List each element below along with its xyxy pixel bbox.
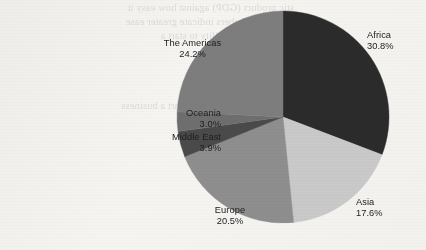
pie-slice-the-americas (177, 11, 283, 117)
slice-label-americas: The Americas 24.2% (140, 38, 245, 61)
slice-label-oceania-name: Oceania (143, 108, 221, 119)
slice-label-europe: Europe 20.5% (190, 205, 270, 228)
slice-label-africa-name: Africa (367, 30, 394, 41)
slice-label-asia: Asia 17.6% (356, 197, 383, 220)
slice-label-africa: Africa 30.8% (367, 30, 394, 53)
slice-label-europe-name: Europe (190, 205, 270, 216)
slice-label-middle-east-name: Middle East (143, 132, 221, 143)
slice-label-europe-value: 20.5% (190, 216, 270, 227)
slice-label-middle-east: Middle East 3.9% (143, 132, 221, 155)
slice-label-americas-name: The Americas (140, 38, 245, 49)
slice-label-asia-value: 17.6% (356, 208, 383, 219)
slice-label-americas-value: 24.2% (140, 49, 245, 60)
slice-label-africa-value: 30.8% (367, 41, 394, 52)
slice-label-asia-name: Asia (356, 197, 383, 208)
slice-label-middle-east-value: 3.9% (143, 143, 221, 154)
pie-chart: Africa 30.8% Asia 17.6% Europe 20.5% Mid… (0, 0, 426, 250)
slice-label-oceania-value: 3.0% (143, 119, 221, 130)
page-canvas: stic product (GDP) against how easy it s… (0, 0, 426, 250)
slice-label-oceania: Oceania 3.0% (143, 108, 221, 131)
